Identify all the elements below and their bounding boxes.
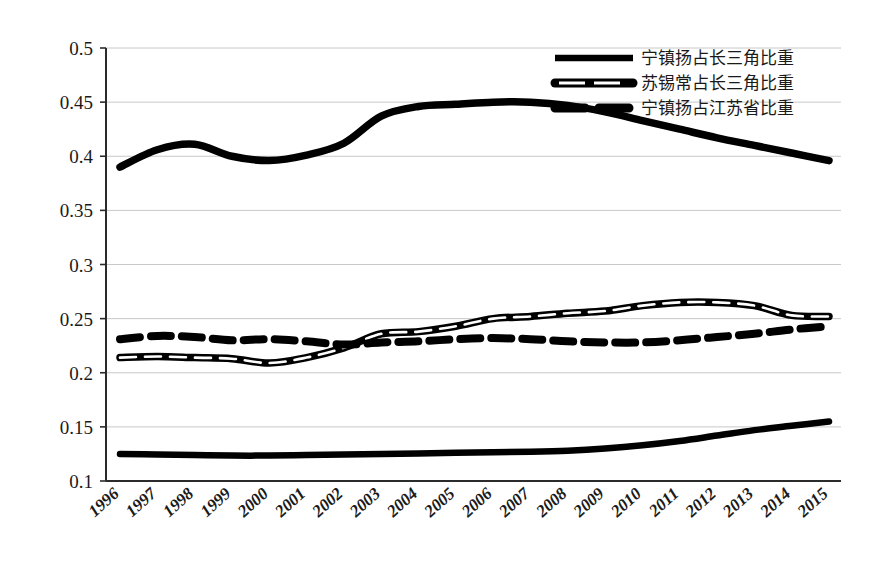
line-chart: 0.50.450.40.350.30.250.20.150.1 19961997… [0,0,886,580]
y-tick-label: 0.5 [69,38,93,59]
legend-label: 宁镇扬占江苏省比重 [641,99,794,118]
y-tick-label: 0.15 [60,417,93,438]
y-tick-label: 0.25 [60,309,93,330]
y-tick-label: 0.45 [60,92,93,113]
y-tick-label: 0.2 [69,363,93,384]
y-tick-label: 0.4 [69,146,93,167]
chart-container: 0.50.450.40.350.30.250.20.150.1 19961997… [0,0,886,580]
y-tick-label: 0.3 [69,255,93,276]
y-tick-label: 0.35 [60,200,93,221]
legend-label: 宁镇扬占长三角比重 [641,49,794,68]
y-tick-label: 0.1 [69,471,93,492]
legend-label: 苏锡常占长三角比重 [641,74,794,93]
